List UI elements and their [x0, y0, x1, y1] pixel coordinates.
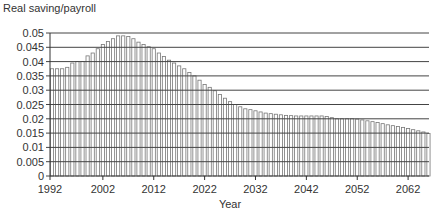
bar: [371, 122, 374, 176]
bar: [91, 53, 94, 176]
x-tick-label: 2012: [142, 183, 166, 195]
bar: [208, 87, 211, 176]
y-tick-label: 0.045: [16, 41, 44, 53]
bar: [300, 116, 303, 176]
bar: [310, 116, 313, 176]
bar: [228, 102, 231, 176]
bar: [71, 63, 74, 176]
bar: [122, 36, 125, 176]
y-tick-label: 0.015: [16, 127, 44, 139]
bar: [66, 67, 69, 176]
bar: [218, 94, 221, 176]
x-tick-label: 2052: [345, 183, 369, 195]
bar: [61, 69, 64, 176]
bar: [178, 66, 181, 176]
bar: [381, 124, 384, 176]
bar: [117, 36, 120, 176]
bar: [132, 39, 135, 176]
bar: [417, 131, 420, 176]
y-tick-label: 0: [38, 170, 44, 182]
bar: [305, 116, 308, 176]
bar: [96, 49, 99, 176]
x-tick-label: 1992: [38, 183, 62, 195]
x-axis-title-text: Year: [219, 198, 241, 210]
bar: [254, 111, 257, 176]
bar: [320, 116, 323, 176]
y-tick-label: 0.02: [23, 113, 44, 125]
x-axis-title: Year: [0, 198, 446, 210]
bar: [234, 105, 237, 177]
bar: [386, 125, 389, 176]
y-axis-title: Real saving/payroll: [3, 2, 96, 14]
bar: [101, 44, 104, 176]
bar: [396, 127, 399, 176]
bar: [249, 110, 252, 176]
bar: [401, 127, 404, 176]
bar: [361, 120, 364, 176]
bar: [193, 76, 196, 176]
bar: [274, 114, 277, 176]
x-tick-label: 2022: [192, 183, 216, 195]
bar: [407, 129, 410, 176]
bar: [137, 42, 140, 176]
bar: [55, 69, 58, 176]
bar: [86, 56, 89, 176]
bar: [142, 44, 145, 176]
x-tick-label: 2002: [91, 183, 115, 195]
bar: [167, 60, 170, 176]
bar: [188, 72, 191, 176]
bar: [412, 130, 415, 176]
y-tick-label: 0.05: [23, 27, 44, 39]
bar: [376, 123, 379, 176]
bar: [279, 115, 282, 176]
bar: [223, 98, 226, 176]
bar: [147, 47, 150, 176]
bar: [111, 39, 114, 176]
bar: [259, 112, 262, 176]
bar: [290, 116, 293, 176]
y-tick-label: 0.01: [23, 141, 44, 153]
bar: [127, 36, 130, 176]
x-tick-label: 2032: [243, 183, 267, 195]
bar: [172, 63, 175, 176]
bar: [366, 121, 369, 176]
x-tick-label: 2062: [396, 183, 420, 195]
bar: [239, 107, 242, 176]
y-tick-label: 0.04: [23, 56, 44, 68]
bar: [157, 53, 160, 176]
plot-area: 00.0050.010.0150.020.0250.030.0350.040.0…: [0, 0, 446, 217]
y-tick-label: 0.025: [16, 99, 44, 111]
bar: [269, 114, 272, 176]
bar: [295, 116, 298, 176]
bar: [325, 117, 328, 176]
bar-chart: Real saving/payroll 00.0050.010.0150.020…: [0, 0, 446, 217]
y-tick-label: 0.03: [23, 84, 44, 96]
bar: [264, 113, 267, 176]
bar: [203, 84, 206, 176]
bar: [315, 116, 318, 176]
bar: [422, 132, 425, 176]
x-tick-label: 2042: [294, 183, 318, 195]
bar: [183, 69, 186, 176]
bar: [427, 133, 430, 176]
bar: [284, 115, 287, 176]
y-tick-label: 0.035: [16, 70, 44, 82]
bar: [162, 56, 165, 176]
y-tick-label: 0.005: [16, 156, 44, 168]
bar: [330, 118, 333, 176]
bar: [50, 69, 53, 176]
bar: [152, 49, 155, 176]
